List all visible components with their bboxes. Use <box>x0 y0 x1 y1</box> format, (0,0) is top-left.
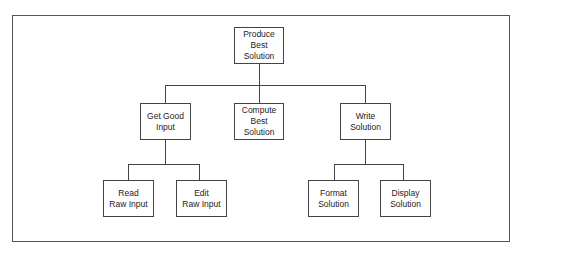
node-label-line: Raw Input <box>109 199 147 210</box>
connector-to-format-solution <box>334 164 335 180</box>
connector-to-display-solution <box>403 164 404 180</box>
connector-input-leaf-bar <box>128 164 200 165</box>
node-label-line: Solution <box>390 199 421 210</box>
node-edit-raw-input: Edit Raw Input <box>176 180 227 217</box>
node-label-line: Display <box>390 188 421 199</box>
node-label-line: Get Good <box>147 111 184 122</box>
node-read-raw-input: Read Raw Input <box>103 180 154 217</box>
connector-to-get-good-input <box>165 85 166 103</box>
node-label-line: Input <box>147 122 184 133</box>
node-label-line: Write <box>350 111 381 122</box>
node-label-line: Solution <box>350 122 381 133</box>
node-label-line: Read <box>109 188 147 199</box>
connector-write-solution-down <box>365 139 366 164</box>
node-label-line: Solution <box>318 199 349 210</box>
connector-get-good-input-down <box>165 139 166 164</box>
node-label-line: Solution <box>243 51 275 62</box>
node-compute-best-solution: Compute Best Solution <box>234 103 284 140</box>
node-label-line: Best <box>242 116 277 127</box>
connector-root-down <box>259 63 260 103</box>
node-write-solution: Write Solution <box>340 103 391 140</box>
node-produce-best-solution: Produce Best Solution <box>234 27 284 64</box>
connector-level2-bar <box>165 85 366 86</box>
node-label-line: Best <box>243 40 275 51</box>
node-label-line: Edit <box>182 188 220 199</box>
node-label-line: Produce <box>243 29 275 40</box>
node-label-line: Compute <box>242 105 277 116</box>
node-label-line: Solution <box>242 127 277 138</box>
node-format-solution: Format Solution <box>308 180 359 217</box>
connector-output-leaf-bar <box>334 164 404 165</box>
node-display-solution: Display Solution <box>380 180 431 217</box>
node-label-line: Format <box>318 188 349 199</box>
node-get-good-input: Get Good Input <box>140 103 191 140</box>
connector-to-read-raw-input <box>128 164 129 180</box>
connector-to-write-solution <box>365 85 366 103</box>
node-label-line: Raw Input <box>182 199 220 210</box>
connector-to-edit-raw-input <box>199 164 200 180</box>
